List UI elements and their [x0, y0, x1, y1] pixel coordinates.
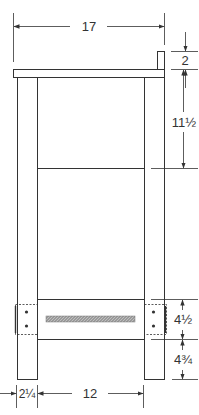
back-block	[158, 52, 165, 70]
label-rail-to-floor: 4¾	[174, 352, 192, 367]
label-lower-rail-height: 4½	[174, 312, 192, 327]
left-leg	[18, 78, 38, 380]
bench-elevation-drawing: 17 2 11½ 4½ 4¾ 2¼ 12	[0, 0, 199, 415]
hatched-bar	[46, 316, 135, 322]
top-board	[14, 70, 165, 78]
label-inner-span: 12	[83, 386, 97, 401]
bolt-hole-icon	[152, 310, 155, 313]
label-back-block-height: 2	[181, 53, 188, 68]
label-leg-width: 2¼	[19, 387, 37, 401]
bolt-hole-icon	[152, 324, 155, 327]
bolt-hole-icon	[25, 310, 28, 313]
label-overall-width: 17	[82, 19, 96, 34]
bolt-hole-icon	[25, 324, 28, 327]
label-top-to-rail: 11½	[172, 115, 196, 130]
